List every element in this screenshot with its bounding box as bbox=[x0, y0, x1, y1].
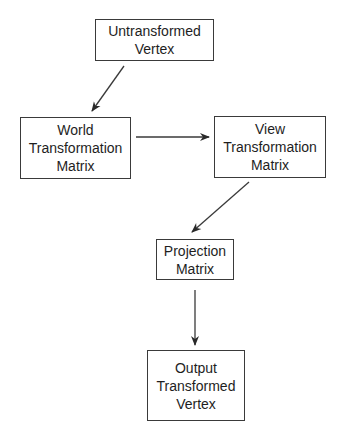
node-label-line: Transformation bbox=[223, 138, 317, 156]
node-label-line: Vertex bbox=[176, 395, 216, 413]
node-label-line: Matrix bbox=[56, 157, 94, 175]
node-label-line: View bbox=[255, 120, 285, 138]
node-label-line: Vertex bbox=[135, 40, 175, 58]
node-output-transformed-vertex: Output Transformed Vertex bbox=[147, 350, 245, 421]
node-label-line: Untransformed bbox=[108, 22, 201, 40]
node-projection-matrix: Projection Matrix bbox=[156, 239, 234, 280]
node-label-line: Transformation bbox=[29, 139, 123, 157]
node-label-line: Transformed bbox=[157, 377, 236, 395]
node-untransformed-vertex: Untransformed Vertex bbox=[95, 19, 214, 61]
node-label-line: Matrix bbox=[176, 260, 214, 278]
node-label-line: World bbox=[57, 121, 93, 139]
node-view-transformation-matrix: View Transformation Matrix bbox=[214, 116, 326, 178]
arrow-untransformed-to-world bbox=[92, 66, 124, 111]
node-label-line: Projection bbox=[164, 242, 226, 260]
node-label-line: Matrix bbox=[251, 156, 289, 174]
node-label-line: Output bbox=[175, 359, 217, 377]
arrow-view-to-projection bbox=[192, 182, 249, 232]
node-world-transformation-matrix: World Transformation Matrix bbox=[20, 117, 131, 179]
